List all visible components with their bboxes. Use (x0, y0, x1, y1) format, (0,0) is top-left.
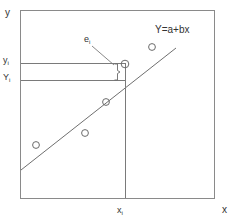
fitted-value-label: Yi (3, 73, 10, 82)
regression-line (21, 48, 176, 170)
data-point (149, 44, 156, 51)
data-point (82, 130, 89, 137)
residual-subscript: i (89, 38, 90, 45)
residual-brace-icon (115, 64, 121, 80)
observed-value-base: y (3, 55, 8, 65)
fitted-value-subscript: i (9, 76, 10, 83)
data-point (103, 99, 110, 106)
residual-label: ei (84, 35, 90, 44)
chart-canvas (0, 0, 233, 224)
x-value-base: x (117, 205, 122, 215)
regression-residual-figure: y x yi Yi xi ei Y=a+bx (0, 0, 233, 224)
data-point (33, 142, 40, 149)
observed-value-label: yi (3, 56, 9, 65)
residual-leader-line (92, 46, 114, 65)
observed-value-subscript: i (8, 59, 9, 66)
x-value-label: xi (117, 206, 123, 215)
y-axis-label: y (5, 8, 10, 18)
x-value-subscript: i (122, 209, 123, 216)
x-axis-label: x (222, 205, 227, 215)
regression-equation-label: Y=a+bx (155, 25, 189, 35)
plot-frame (21, 11, 215, 199)
